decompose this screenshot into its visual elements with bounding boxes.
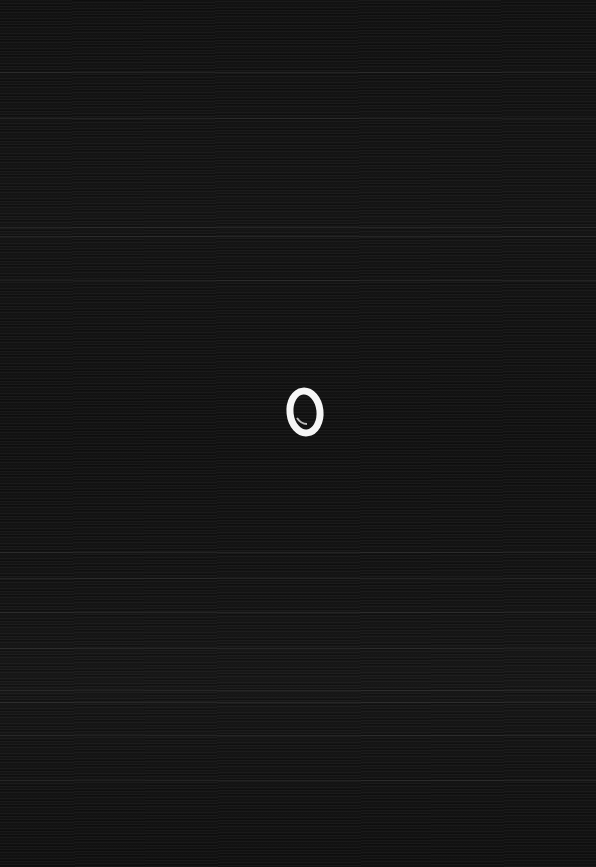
streak-line — [0, 280, 596, 281]
streak-line — [0, 690, 596, 691]
handwritten-digit-zero — [283, 382, 329, 442]
streak-line — [0, 72, 596, 73]
streak-line — [0, 236, 596, 237]
noise-background: 0 — [0, 0, 596, 867]
streak-line — [0, 702, 596, 703]
streak-line — [0, 578, 596, 579]
streak-line — [0, 227, 596, 228]
streak-line — [0, 735, 596, 736]
streak-line — [0, 118, 596, 119]
streak-line — [0, 552, 596, 553]
streak-line — [0, 612, 596, 613]
streak-line — [0, 780, 596, 781]
streak-line — [0, 648, 596, 649]
